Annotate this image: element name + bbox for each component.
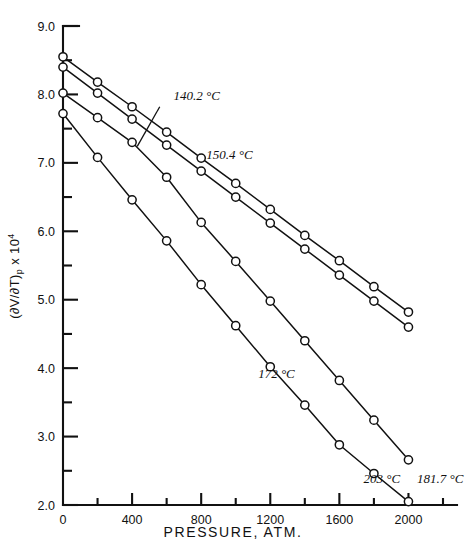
data-series-lines [63, 57, 408, 502]
x-axis-title: PRESSURE, ATM. [0, 524, 466, 540]
data-point-marker [232, 179, 240, 187]
data-point-marker [197, 154, 205, 162]
data-point-marker [59, 63, 67, 71]
data-point-marker [335, 441, 343, 449]
data-point-marker [370, 283, 378, 291]
data-point-marker [232, 257, 240, 265]
y-tick-label: 5.0 [38, 293, 55, 307]
data-point-marker [232, 193, 240, 201]
data-point-marker [301, 231, 309, 239]
series-label-140.2-c: 140.2 °C [174, 88, 221, 103]
data-point-marker [93, 153, 101, 161]
data-point-marker [93, 78, 101, 86]
series-label-203-c: 203 °C [364, 471, 401, 486]
y-tick-label: 2.0 [38, 499, 55, 513]
y-tick-label: 7.0 [38, 156, 55, 170]
data-point-marker [163, 237, 171, 245]
y-axis-title-tail: x 10 [7, 239, 22, 269]
y-tick-label: 3.0 [38, 430, 55, 444]
data-point-marker [335, 271, 343, 279]
data-point-marker [59, 53, 67, 61]
chart-canvas: 2.03.04.05.06.07.08.09.0 040080012001600… [0, 0, 466, 556]
y-axis-title: (∂V/∂T)p x 104 [2, 176, 28, 376]
series-line [63, 114, 408, 502]
x-axis-ticks [98, 493, 443, 505]
data-point-marker [128, 103, 136, 111]
y-tick-label: 4.0 [38, 362, 55, 376]
data-point-marker [128, 138, 136, 146]
data-point-marker [197, 218, 205, 226]
data-point-marker [404, 308, 412, 316]
data-point-marker [59, 89, 67, 97]
y-axis-title-sub: p [14, 269, 24, 274]
data-point-marker [404, 497, 412, 505]
figure-panel: 2.03.04.05.06.07.08.09.0 040080012001600… [0, 0, 466, 556]
data-point-marker [163, 141, 171, 149]
data-point-marker [370, 297, 378, 305]
y-tick-label: 6.0 [38, 225, 55, 239]
axis-lines [63, 26, 457, 505]
data-point-marker [335, 257, 343, 265]
series-label-150.4-c: 150.4 °C [206, 147, 253, 162]
data-point-marker [404, 323, 412, 331]
data-point-marker [301, 337, 309, 345]
data-point-marker [197, 167, 205, 175]
data-point-marker [197, 281, 205, 289]
data-point-marker [301, 245, 309, 253]
series-label-172-c: 172 °C [258, 366, 295, 381]
data-point-marker [266, 219, 274, 227]
data-point-marker [266, 297, 274, 305]
data-point-marker [232, 322, 240, 330]
data-point-marker [266, 205, 274, 213]
data-point-marker [301, 401, 309, 409]
series-annotation-labels: 140.2 °C150.4 °C172 °C203 °C181.7 °C [174, 88, 464, 486]
data-point-marker [163, 128, 171, 136]
y-axis-tick-labels: 2.03.04.05.06.07.08.09.0 [38, 20, 55, 513]
data-point-marker [128, 196, 136, 204]
data-point-marker [93, 89, 101, 97]
y-tick-label: 9.0 [38, 20, 55, 34]
y-axis-title-main: (∂V/∂T) [7, 274, 22, 319]
data-point-marker [370, 416, 378, 424]
data-point-marker [128, 115, 136, 123]
data-series-markers [59, 53, 413, 506]
series-label-181.7-c: 181.7 °C [417, 471, 464, 486]
data-point-marker [404, 456, 412, 464]
data-point-marker [335, 376, 343, 384]
y-axis-title-sup: 4 [6, 233, 16, 238]
data-point-marker [163, 173, 171, 181]
data-point-marker [59, 109, 67, 117]
data-point-marker [93, 114, 101, 122]
y-tick-label: 8.0 [38, 88, 55, 102]
